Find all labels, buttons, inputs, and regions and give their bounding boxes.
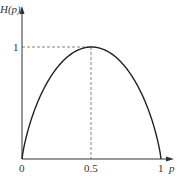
x-axis-arrow-icon <box>166 157 174 162</box>
x-axis-label: p <box>168 162 175 174</box>
x-tick-0: 0 <box>19 162 25 174</box>
y-tick-1: 1 <box>13 41 19 53</box>
y-axis-label: H(p) <box>0 3 21 16</box>
entropy-curve <box>22 47 161 159</box>
entropy-chart: H(p) p 0 0.5 1 1 <box>0 0 182 178</box>
x-tick-0-5: 0.5 <box>84 162 98 174</box>
x-tick-1: 1 <box>158 162 164 174</box>
